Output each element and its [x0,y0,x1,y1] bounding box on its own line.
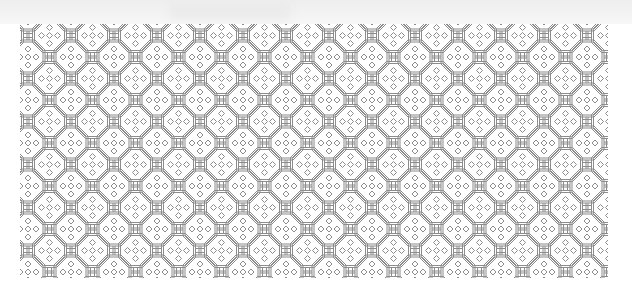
lattice-fill [20,24,608,278]
lattice-pattern [20,24,608,278]
paper-fold [170,4,290,20]
paper-top-shadow [0,0,632,24]
